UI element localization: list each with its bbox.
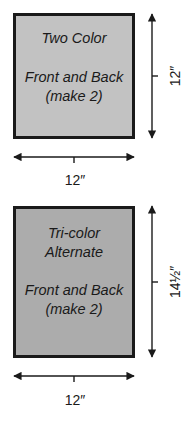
width-label-2: 12″ (60, 392, 90, 408)
width-label-1: 12″ (60, 172, 90, 188)
height-dimension-arrow-2 (152, 206, 158, 357)
height-dimension-arrow-1 (152, 14, 158, 138)
width-dimension-arrow-2 (14, 376, 134, 382)
width-dimension-arrow-1 (14, 157, 134, 163)
dimension-lines (0, 0, 192, 423)
height-label-2: 14½″ (167, 257, 183, 307)
height-label-1: 12″ (167, 61, 183, 91)
